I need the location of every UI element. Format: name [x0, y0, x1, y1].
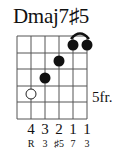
dot-string2-fret4-hollow — [26, 89, 36, 99]
finger-string4: 2 — [52, 121, 66, 137]
dot-string5-fret1 — [68, 40, 79, 51]
degree-string5: 7 — [66, 138, 80, 149]
dot-string4-fret2 — [54, 56, 65, 67]
dot-string3-fret3 — [40, 73, 51, 84]
finger-string5: 1 — [66, 121, 80, 137]
degree-string4: ♯5 — [52, 138, 66, 149]
degree-string6: 3 — [80, 138, 94, 149]
finger-string3: 3 — [38, 121, 52, 137]
finger-string2: 4 — [24, 121, 38, 137]
finger-string6: 1 — [80, 121, 94, 137]
degree-string3: 3 — [38, 138, 52, 149]
dot-string6-fret1 — [82, 40, 93, 51]
degree-string2: R — [24, 138, 38, 149]
start-fret-label: 5fr. — [92, 89, 112, 105]
